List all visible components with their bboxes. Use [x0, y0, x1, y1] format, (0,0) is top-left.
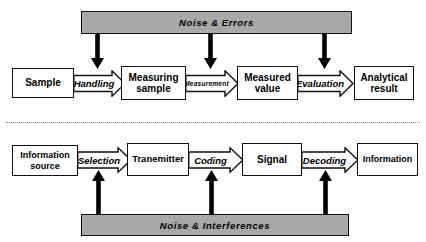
up-arrow-icon-1	[91, 170, 106, 215]
bottom-noise-bar-label: Noise & Interferences	[160, 220, 270, 231]
box-measured-value-label: Measured value	[244, 72, 291, 94]
box-analytical-result-label: Analytical result	[360, 72, 407, 94]
down-arrow-icon-3	[317, 34, 332, 69]
chevron-measurement: Measurement	[185, 70, 239, 97]
box-measured-value: Measured value	[237, 66, 298, 100]
down-arrow-icon-2	[203, 34, 218, 69]
chevron-handling: Handling	[73, 70, 126, 97]
up-arrow-icon-3	[318, 170, 333, 215]
chevron-evaluation: Evaluation	[297, 70, 354, 97]
bottom-noise-bar: Noise & Interferences	[81, 214, 349, 236]
down-arrow-icon-1	[90, 34, 105, 69]
box-transmitter-label: Tranemitter	[132, 154, 184, 165]
diagram-canvas: Noise & Errors Sample Measuring sample M…	[0, 0, 426, 242]
top-noise-bar: Noise & Errors	[81, 11, 352, 34]
chevron-measurement-label: Measurement	[185, 70, 239, 97]
chevron-evaluation-label: Evaluation	[297, 70, 354, 97]
box-sample: Sample	[12, 68, 74, 98]
section-divider	[6, 122, 420, 123]
box-information-label: Information	[363, 154, 413, 164]
top-noise-bar-label: Noise & Errors	[179, 17, 254, 28]
box-signal: Signal	[242, 143, 302, 176]
box-signal-label: Signal	[257, 154, 287, 165]
box-transmitter: Tranemitter	[127, 143, 189, 176]
box-measuring-sample: Measuring sample	[121, 66, 186, 100]
chevron-handling-label: Handling	[73, 70, 126, 97]
box-sample-label: Sample	[25, 77, 61, 88]
box-analytical-result: Analytical result	[354, 66, 414, 100]
box-information-source: Information source	[12, 145, 78, 176]
box-information: Information	[357, 143, 418, 176]
box-measuring-sample-label: Measuring sample	[128, 72, 178, 94]
up-arrow-icon-2	[204, 170, 219, 215]
box-information-source-label: Information source	[20, 150, 70, 170]
